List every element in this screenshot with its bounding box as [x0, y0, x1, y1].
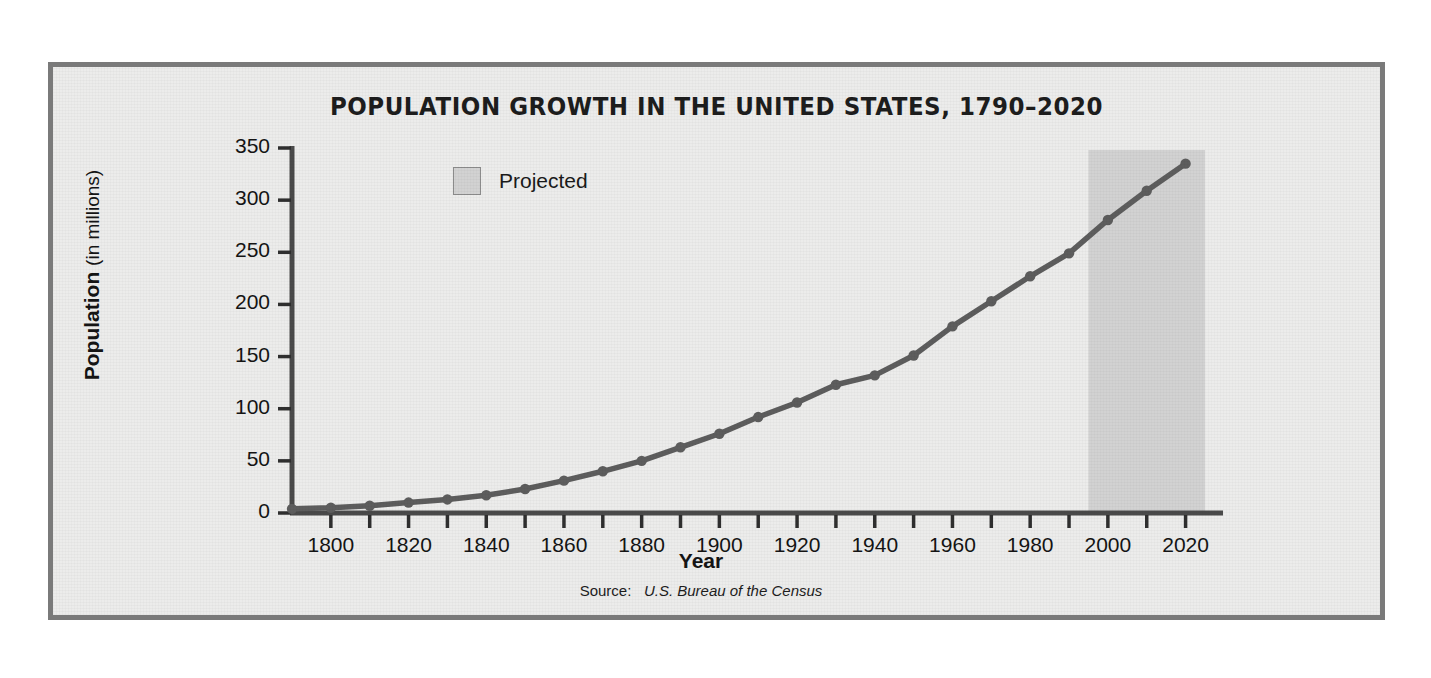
- y-tick-label: 350: [184, 134, 270, 158]
- projected-shaded-band: [1088, 150, 1205, 513]
- x-tick-label: 1920: [752, 533, 842, 557]
- y-tick-label: 100: [184, 395, 270, 419]
- population-line-series: [292, 164, 1186, 509]
- y-tick-label: 0: [184, 499, 270, 523]
- data-point-marker: [1180, 158, 1190, 168]
- data-point-marker: [1142, 186, 1152, 196]
- x-tick-label: 1820: [364, 533, 454, 557]
- chart-tick-marks: [278, 148, 1186, 528]
- x-tick-label: 2020: [1141, 533, 1231, 557]
- x-tick-label: 2000: [1063, 533, 1153, 557]
- data-point-marker: [403, 497, 413, 507]
- x-tick-label: 1880: [597, 533, 687, 557]
- data-point-marker: [908, 350, 918, 360]
- data-point-marker: [326, 503, 336, 513]
- data-point-marker: [598, 466, 608, 476]
- x-tick-label: 1960: [907, 533, 997, 557]
- data-point-marker: [1103, 215, 1113, 225]
- data-point-marker: [947, 321, 957, 331]
- data-point-marker: [636, 456, 646, 466]
- data-point-marker: [481, 490, 491, 500]
- data-point-marker: [675, 442, 685, 452]
- data-point-marker: [714, 429, 724, 439]
- chart-axes: [290, 146, 1223, 513]
- data-point-marker: [831, 380, 841, 390]
- data-point-marker: [365, 501, 375, 511]
- data-point-marker: [520, 484, 530, 494]
- x-tick-label: 1900: [674, 533, 764, 557]
- data-point-marker: [753, 412, 763, 422]
- data-point-marker: [1025, 271, 1035, 281]
- y-tick-label: 50: [184, 447, 270, 471]
- y-tick-label: 150: [184, 343, 270, 367]
- y-tick-label: 200: [184, 290, 270, 314]
- chart-figure-frame: POPULATION GROWTH IN THE UNITED STATES, …: [48, 62, 1385, 620]
- x-tick-label: 1980: [985, 533, 1075, 557]
- x-tick-label: 1860: [519, 533, 609, 557]
- data-point-marker: [986, 296, 996, 306]
- x-tick-label: 1800: [286, 533, 376, 557]
- data-point-marker: [870, 370, 880, 380]
- data-point-marker: [442, 494, 452, 504]
- x-tick-label: 1840: [441, 533, 531, 557]
- x-tick-label: 1940: [830, 533, 920, 557]
- data-point-marker: [792, 397, 802, 407]
- data-point-marker: [287, 504, 297, 514]
- data-point-marker: [559, 475, 569, 485]
- y-tick-label: 250: [184, 238, 270, 262]
- data-point-marker: [1064, 248, 1074, 258]
- y-tick-label: 300: [184, 186, 270, 210]
- population-data-markers: [287, 158, 1191, 514]
